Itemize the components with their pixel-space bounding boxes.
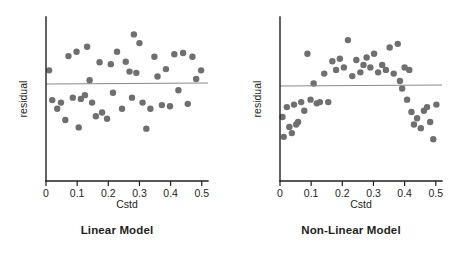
linear-model-plot: 00.10.20.30.40.5 Cstd residual [0, 0, 234, 215]
data-point [84, 44, 90, 50]
data-point [404, 96, 410, 102]
data-point [367, 64, 373, 70]
data-point [360, 62, 366, 68]
data-point [383, 67, 389, 73]
data-point [430, 136, 436, 142]
data-point [418, 125, 424, 131]
data-point [114, 49, 120, 55]
data-point [129, 94, 135, 100]
data-point [375, 69, 381, 75]
data-point [395, 41, 401, 47]
x-axis-tick-label: 0.2 [101, 187, 116, 199]
data-point [391, 70, 397, 76]
data-point [386, 44, 392, 50]
data-point [399, 85, 405, 91]
data-point [291, 101, 297, 107]
data-point [167, 103, 173, 109]
data-point [337, 56, 343, 62]
data-point [325, 99, 331, 105]
data-point [54, 106, 60, 112]
data-point [345, 37, 351, 43]
x-axis-tick-label: 0.1 [304, 187, 319, 199]
data-point [357, 69, 363, 75]
data-point [317, 99, 323, 105]
x-axis-tick-label: 0.4 [163, 187, 178, 199]
panel-caption-nonlinear: Non-Linear Model [234, 224, 468, 236]
x-axis-tick-label: 0.1 [70, 187, 85, 199]
linear-plot-points [46, 31, 204, 132]
panel-caption-linear: Linear Model [0, 224, 234, 236]
data-point [46, 67, 52, 73]
data-point [133, 70, 139, 76]
x-axis-ticks [46, 181, 202, 186]
zero-reference-line [46, 83, 208, 84]
data-point [159, 102, 165, 108]
data-point [96, 59, 102, 65]
x-axis-tick-label: 0.2 [335, 187, 350, 199]
data-point [295, 119, 301, 125]
x-axis-tick-label: 0 [43, 187, 49, 199]
data-point [281, 134, 287, 140]
data-point [304, 51, 310, 57]
nonlinear-model-plot: 00.10.20.30.40.5 Cstd residual [234, 0, 468, 215]
data-point [341, 64, 347, 70]
y-axis-title: residual [17, 81, 29, 118]
x-axis-tick-label: 0.4 [397, 187, 412, 199]
data-point [131, 31, 137, 37]
data-point [143, 125, 149, 131]
panel-nonlinear-model: 00.10.20.30.40.5 Cstd residual Non-Linea… [234, 0, 468, 260]
data-point [58, 99, 64, 105]
data-point [289, 130, 295, 136]
data-point [363, 54, 369, 60]
data-point [333, 67, 339, 73]
data-point [154, 73, 160, 79]
data-point [99, 109, 105, 115]
data-point [175, 87, 181, 93]
data-point [301, 108, 307, 114]
data-point [185, 101, 191, 107]
zero-reference-line [280, 85, 442, 86]
data-point [193, 76, 199, 82]
data-point [307, 96, 313, 102]
data-point [171, 51, 177, 57]
data-point [110, 89, 116, 95]
data-point [65, 53, 71, 59]
data-point [86, 77, 92, 83]
panel-linear-model: 00.10.20.30.40.5 Cstd residual Linear Mo… [0, 0, 234, 260]
data-point [371, 51, 377, 57]
x-axis-title: Cstd [350, 198, 372, 210]
data-point [298, 99, 304, 105]
data-point [126, 68, 132, 74]
data-point [139, 99, 145, 105]
data-point [73, 49, 79, 55]
data-point [70, 94, 76, 100]
data-point [408, 109, 414, 115]
data-point [180, 50, 186, 56]
data-point [76, 124, 82, 130]
data-point [119, 106, 125, 112]
data-point [49, 97, 55, 103]
data-point [151, 54, 157, 60]
data-point [163, 66, 169, 72]
y-axis-title: residual [251, 81, 263, 118]
data-point [353, 57, 359, 63]
x-axis-title: Cstd [116, 198, 138, 210]
data-point [284, 104, 290, 110]
data-point [414, 115, 420, 121]
data-point [93, 113, 99, 119]
data-point [123, 58, 129, 64]
data-point [427, 119, 433, 125]
residual-plots-figure: 00.10.20.30.40.5 Cstd residual Linear Mo… [0, 0, 468, 260]
data-point [433, 101, 439, 107]
data-point [198, 67, 204, 73]
x-axis-tick-label: 0.5 [194, 187, 209, 199]
data-point [397, 78, 403, 84]
data-point [329, 58, 335, 64]
data-point [424, 104, 430, 110]
data-point [349, 73, 355, 79]
data-point [62, 117, 68, 123]
x-axis-tick-label: 0 [277, 187, 283, 199]
data-point [147, 106, 153, 112]
data-point [406, 67, 412, 73]
data-point [136, 40, 142, 46]
